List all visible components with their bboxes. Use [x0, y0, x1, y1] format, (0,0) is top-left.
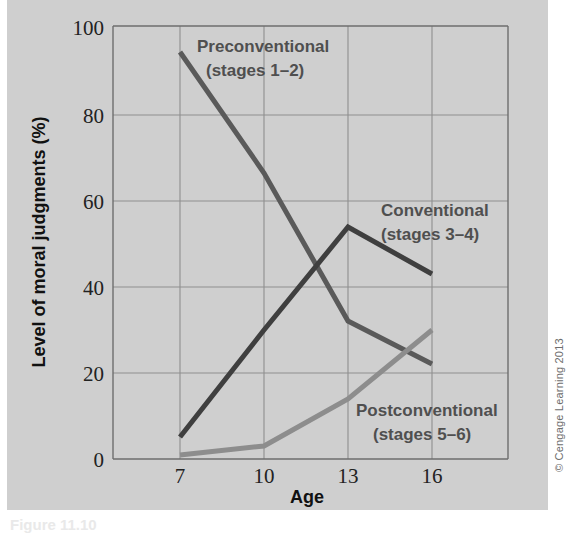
x-axis-tick-labels: 7 10 13 16	[175, 464, 443, 488]
annotation-conventional: Conventional (stages 3–4)	[381, 201, 489, 244]
x-axis-title: Age	[290, 487, 324, 507]
y-tick-label-0: 0	[94, 448, 105, 472]
y-tick-label-40: 40	[83, 276, 104, 300]
annotation-conventional-line2: (stages 3–4)	[381, 225, 479, 244]
annotation-postconventional-line1: Postconventional	[356, 401, 498, 420]
annotation-preconventional-line1: Preconventional	[197, 37, 329, 56]
copyright-credit-text: © Cengage Learning 2013	[553, 338, 565, 472]
y-tick-label-20: 20	[83, 362, 104, 386]
x-tick-label-13: 13	[338, 464, 359, 488]
y-tick-label-60: 60	[83, 190, 104, 214]
figure-caption: Figure 11.10	[10, 516, 97, 533]
annotation-preconventional-line2: (stages 1–2)	[206, 61, 304, 80]
y-axis-title: Level of moral judgments (%)	[29, 116, 49, 367]
x-tick-label-16: 16	[422, 464, 443, 488]
y-tick-label-100: 100	[73, 16, 105, 40]
x-tick-label-7: 7	[175, 464, 186, 488]
annotation-postconventional: Postconventional (stages 5–6)	[356, 401, 498, 444]
annotation-postconventional-line2: (stages 5–6)	[373, 425, 471, 444]
y-tick-label-80: 80	[83, 104, 104, 128]
copyright-credit: © Cengage Learning 2013	[548, 0, 573, 510]
y-axis-tick-labels: 100 80 60 40 20 0	[73, 16, 105, 472]
gridlines-horizontal	[113, 115, 508, 373]
annotation-conventional-line1: Conventional	[381, 201, 489, 220]
x-tick-label-10: 10	[254, 464, 275, 488]
annotation-preconventional: Preconventional (stages 1–2)	[197, 37, 329, 80]
